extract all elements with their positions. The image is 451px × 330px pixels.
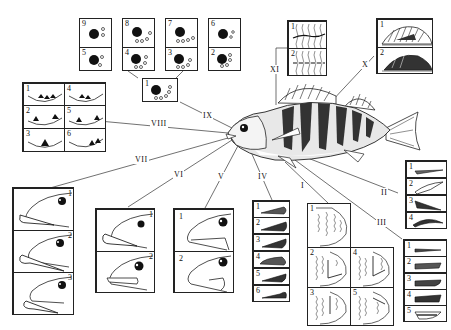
panel-iii-cell-4: 4 <box>404 289 447 306</box>
panel-viii: 1 4 2 5 3 6 <box>22 82 106 152</box>
panel-i-cell-1: 1 <box>307 203 351 248</box>
panel-ix-cell-8: 8 <box>122 18 155 48</box>
label-xi: XI <box>269 65 280 74</box>
panel-iv-cell-1: 1 <box>253 201 290 218</box>
panel-ix-cell-9: 9 <box>79 18 112 48</box>
panel-ix-cell-7: 7 <box>165 18 198 48</box>
panel-xi-cell-2: 2 <box>288 48 327 76</box>
panel-vii-cell-2: 2 <box>13 230 74 273</box>
label-vii: VII <box>134 155 149 164</box>
panel-xi-cell-1: 1 <box>288 21 327 49</box>
perch-morphology-diagram: IX VIII VII VI V IV I II III X XI 9 5 8 … <box>0 0 451 330</box>
panel-iv-cell-5: 5 <box>253 268 290 285</box>
panel-vii-cell-1: 1 <box>13 188 74 231</box>
panel-viii-cell-2: 2 <box>23 105 65 129</box>
label-x: X <box>361 60 369 69</box>
panel-vi-cell-2: 2 <box>96 251 155 293</box>
panel-ix-cell-5: 5 <box>79 47 112 71</box>
label-ix: IX <box>202 111 213 120</box>
panel-xi: 1 2 <box>287 20 327 76</box>
panel-ii-cell-4: 4 <box>406 212 447 229</box>
panel-iii-cell-3: 3 <box>404 273 447 290</box>
panel-viii-cell-1: 1 <box>23 83 65 106</box>
panel-ix-cell-3: 3 <box>165 47 198 71</box>
panel-iii: 1 2 3 4 5 <box>403 239 447 322</box>
panel-ii-cell-2: 2 <box>406 178 447 195</box>
panel-ix-cell-4: 4 <box>122 47 155 71</box>
panel-viii-cell-3: 3 <box>23 128 65 152</box>
panel-iii-cell-1: 1 <box>404 240 447 257</box>
panel-i-cell-5: 5 <box>350 287 394 326</box>
panel-ix-cell-6: 6 <box>208 18 241 48</box>
panel-vi-cell-1: 1 <box>96 209 155 252</box>
label-viii: VIII <box>150 119 168 128</box>
panel-vi: 1 2 <box>95 208 155 293</box>
panel-viii-cell-4: 4 <box>64 83 106 106</box>
panel-iii-cell-5: 5 <box>404 305 447 322</box>
panel-ix-cell-2: 2 <box>208 47 241 71</box>
panel-ii-cell-1: 1 <box>406 161 447 178</box>
label-v: V <box>217 172 225 181</box>
panel-viii-cell-5: 5 <box>64 105 106 129</box>
panel-i-cell-2: 2 <box>307 247 351 288</box>
panel-x: 1 2 <box>376 18 433 74</box>
label-iv: IV <box>257 172 268 181</box>
panel-vii-cell-3: 3 <box>13 272 74 315</box>
panel-ii-cell-3: 3 <box>406 195 447 212</box>
panel-viii-cell-6: 6 <box>64 128 106 152</box>
panel-v-cell-1: 1 <box>174 209 234 252</box>
panel-ix-cell-1: 1 <box>142 78 178 102</box>
panel-iv-cell-4: 4 <box>253 251 290 268</box>
label-vi: VI <box>173 170 184 179</box>
panel-ii: 1 2 3 4 <box>405 160 447 229</box>
panel-v-cell-2: 2 <box>174 251 234 293</box>
panel-iv-cell-2: 2 <box>253 217 290 234</box>
panel-iv-cell-6: 6 <box>253 285 290 302</box>
panel-iv-cell-3: 3 <box>253 234 290 251</box>
label-i: I <box>300 181 305 190</box>
panel-i-cell-4: 4 <box>350 247 394 288</box>
panel-v: 1 2 <box>173 208 234 293</box>
panel-i-cell-3: 3 <box>307 287 351 326</box>
panel-x-cell-2: 2 <box>377 47 433 74</box>
panel-x-cell-1: 1 <box>377 19 433 48</box>
perch-illustration <box>226 84 420 168</box>
label-iii: III <box>376 218 388 227</box>
panel-iv: 1 2 3 4 5 6 <box>252 200 290 302</box>
panel-iii-cell-2: 2 <box>404 256 447 273</box>
label-ii: II <box>380 188 388 197</box>
panel-vii: 1 2 3 <box>12 187 74 315</box>
